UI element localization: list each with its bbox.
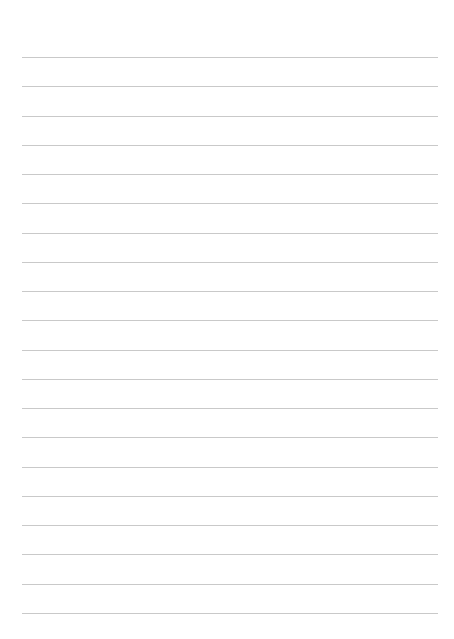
ruled-line: [22, 174, 438, 175]
ruled-line: [22, 408, 438, 409]
ruled-line: [22, 291, 438, 292]
ruled-line: [22, 379, 438, 380]
ruled-line: [22, 525, 438, 526]
ruled-line: [22, 584, 438, 585]
ruled-line: [22, 437, 438, 438]
ruled-line: [22, 467, 438, 468]
ruled-line: [22, 496, 438, 497]
ruled-line: [22, 350, 438, 351]
ruled-line: [22, 57, 438, 58]
ruled-line: [22, 86, 438, 87]
ruled-line: [22, 554, 438, 555]
ruled-line: [22, 613, 438, 614]
ruled-line: [22, 116, 438, 117]
ruled-line: [22, 262, 438, 263]
ruled-line: [22, 145, 438, 146]
lined-paper-page: [0, 0, 454, 639]
ruled-line: [22, 320, 438, 321]
ruled-line: [22, 233, 438, 234]
ruled-line: [22, 203, 438, 204]
